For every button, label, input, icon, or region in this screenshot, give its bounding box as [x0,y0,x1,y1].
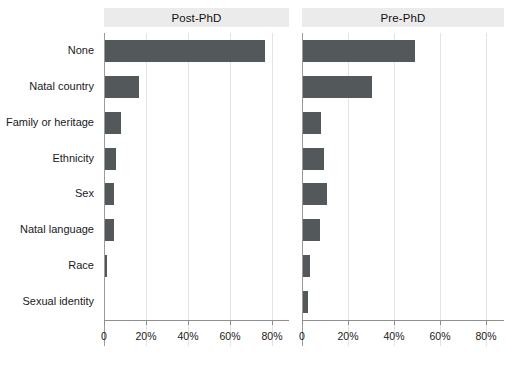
x-tick-20 [146,321,147,325]
x-tick-label-80: 80% [475,330,496,342]
bar-ethnicity [303,148,324,170]
panel-title: Pre-PhD [381,12,426,24]
y-axis-label-sexual-identity: Sexual identity [0,296,94,307]
bar-sex [303,183,327,205]
bar-sexual-identity [303,291,308,313]
panel-title: Post-PhD [171,12,221,24]
plot-area-post-phd: 020%40%60%80% [104,33,289,346]
x-axis-line [104,320,289,321]
y-axis-label-family-or-heritage: Family or heritage [0,117,94,128]
gridline-20 [146,33,147,346]
y-axis-label-ethnicity: Ethnicity [0,153,94,164]
x-tick-0 [302,321,303,325]
bar-natal-language [105,219,114,241]
gridline-80 [272,33,273,346]
x-tick-label-40: 40% [177,330,198,342]
x-tick-label-60: 60% [429,330,450,342]
x-tick-80 [486,321,487,325]
plot-area-pre-phd: 020%40%60%80% [302,33,504,346]
gridline-40 [188,33,189,346]
bar-family-or-heritage [303,112,321,134]
x-axis-line [302,320,504,321]
x-tick-60 [440,321,441,325]
x-tick-80 [272,321,273,325]
bar-none [105,40,265,62]
panel-strip-pre-phd: Pre-PhD [302,8,504,27]
y-axis-label-race: Race [0,260,94,271]
x-tick-label-40: 40% [383,330,404,342]
bar-sex [105,183,114,205]
x-tick-label-80: 80% [261,330,282,342]
bar-natal-country [105,76,139,98]
bar-natal-language [303,219,320,241]
x-tick-20 [348,321,349,325]
bar-natal-country [303,76,372,98]
x-tick-60 [230,321,231,325]
x-tick-40 [394,321,395,325]
faceted-bar-chart: NoneNatal countryFamily or heritageEthni… [0,0,506,381]
x-tick-label-60: 60% [219,330,240,342]
gridline-60 [230,33,231,346]
gridline-40 [394,33,395,346]
x-tick-label-20: 20% [337,330,358,342]
bar-ethnicity [105,148,116,170]
x-tick-40 [188,321,189,325]
y-axis-category-labels: NoneNatal countryFamily or heritageEthni… [0,33,101,338]
bar-race [105,255,107,277]
x-tick-label-20: 20% [135,330,156,342]
panel-pre-phd: Pre-PhD020%40%60%80% [302,8,504,346]
x-tick-label-0: 0 [299,330,305,342]
x-tick-0 [104,321,105,325]
gridline-80 [486,33,487,346]
y-axis-label-sex: Sex [0,188,94,199]
bar-none [303,40,415,62]
bar-family-or-heritage [105,112,121,134]
panel-post-phd: Post-PhD020%40%60%80% [104,8,289,346]
bar-race [303,255,310,277]
y-axis-label-none: None [0,45,94,56]
y-axis-label-natal-country: Natal country [0,81,94,92]
y-axis-label-natal-language: Natal language [0,224,94,235]
panel-strip-post-phd: Post-PhD [104,8,289,27]
x-tick-label-0: 0 [101,330,107,342]
gridline-60 [440,33,441,346]
